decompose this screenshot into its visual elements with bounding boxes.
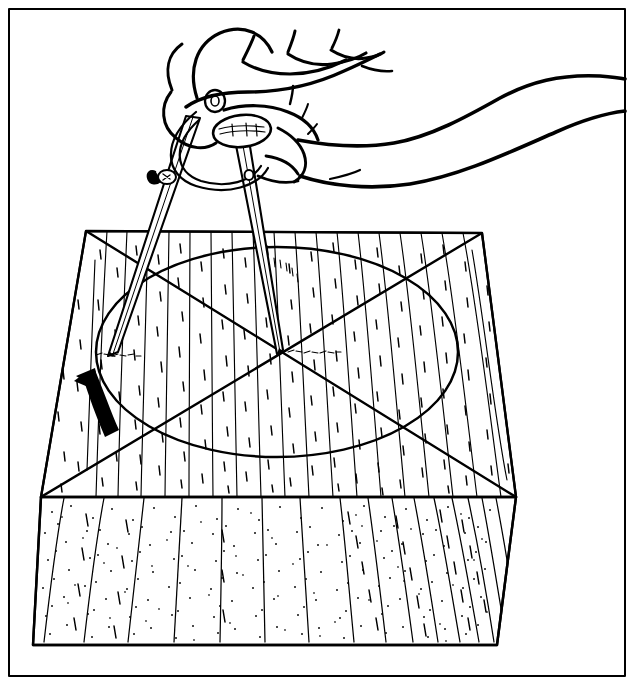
block-front-face — [33, 497, 516, 645]
leg-rivet — [245, 170, 254, 180]
illustration-root: Scribing a circle on a wood block with d… — [0, 0, 634, 685]
illustration-canvas: Scribing a circle on a wood block with d… — [0, 0, 634, 685]
thumbscrew — [147, 170, 176, 184]
